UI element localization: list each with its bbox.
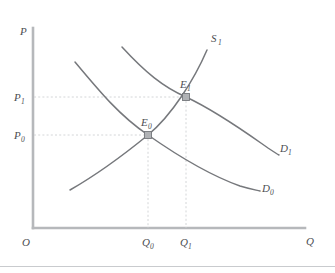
demand-curve-initial (75, 62, 260, 191)
supply-curve-label: S 1 (211, 32, 222, 47)
page-divider (0, 266, 335, 267)
price-tick-1-base: P (13, 91, 21, 103)
price-tick-0-subscript: 0 (21, 135, 25, 144)
demand-curve-initial-label-subscript: 0 (270, 188, 274, 197)
equilibrium-marker-initial (145, 132, 152, 139)
origin-label: O (22, 236, 30, 248)
demand-curve-shifted-label-base: D (279, 142, 288, 154)
quantity-tick-1: Q 1 (180, 236, 192, 251)
equilibrium-initial-label-base: E (140, 116, 148, 128)
price-tick-0-base: P (13, 129, 21, 141)
equilibrium-new-label-subscript: 1 (187, 84, 191, 93)
quantity-tick-1-subscript: 1 (188, 242, 192, 251)
demand-curve-initial-label: D 0 (261, 182, 274, 197)
demand-curve-initial-label-base: D (261, 182, 270, 194)
demand-curve-shifted-label: D 1 (279, 142, 292, 157)
quantity-tick-0-subscript: 0 (150, 242, 154, 251)
quantity-tick-0: Q 0 (142, 236, 154, 251)
quantity-tick-1-base: Q (180, 236, 188, 248)
equilibrium-new-label-base: E (179, 78, 187, 90)
price-tick-1: P 1 (13, 91, 25, 106)
price-axis-label: P (19, 25, 27, 37)
supply-demand-figure: P Q O P 1 P 0 Q 0 Q 1 S 1 D 0 D (0, 0, 335, 273)
equilibrium-initial-label: E 0 (140, 116, 152, 131)
price-tick-1-subscript: 1 (21, 97, 25, 106)
demand-curve-shifted-label-subscript: 1 (288, 148, 292, 157)
equilibrium-marker-new (183, 94, 190, 101)
supply-curve-label-subscript: 1 (218, 38, 222, 47)
equilibrium-initial-label-subscript: 0 (148, 122, 152, 131)
price-tick-0: P 0 (13, 129, 25, 144)
quantity-axis-label: Q (306, 235, 314, 247)
diagram-canvas: P Q O P 1 P 0 Q 0 Q 1 S 1 D 0 D (0, 0, 335, 273)
quantity-tick-0-base: Q (142, 236, 150, 248)
supply-curve-label-base: S (211, 32, 217, 44)
